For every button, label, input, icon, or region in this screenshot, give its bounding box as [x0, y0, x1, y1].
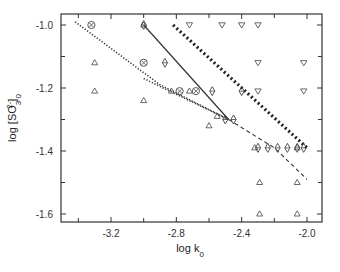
triangle-up-marker: [294, 179, 300, 184]
y-tick-label: -1.4: [36, 146, 54, 157]
triangle-down-marker: [238, 23, 244, 28]
triangle-up-marker: [257, 179, 263, 184]
circled-x-cross: [89, 23, 93, 27]
y-tick-label: -1.2: [36, 83, 54, 94]
triangle-up-marker: [294, 211, 300, 216]
solid-line: [144, 25, 229, 120]
circled-x-cross: [178, 89, 182, 93]
triangle-down-marker: [301, 61, 307, 66]
y-axis-label: log [SO32-]0: [5, 94, 23, 142]
x-tick-label: -2.4: [233, 228, 251, 239]
x-tick-label: -3.2: [102, 228, 120, 239]
x-tick-label: -2.0: [298, 228, 316, 239]
triangle-down-marker: [219, 23, 225, 28]
chart: -3.2-2.8-2.4-2.0-1.0-1.2-1.4-1.6 log k0 …: [0, 0, 340, 272]
data-points: [88, 21, 307, 217]
triangle-down-marker: [186, 23, 192, 28]
triangle-down-marker: [301, 89, 307, 94]
y-tick-label: -1.6: [36, 209, 54, 220]
triangle-up-marker: [257, 211, 263, 216]
triangle-up-marker: [206, 123, 212, 128]
y-label-tail-sub: 0: [14, 94, 23, 99]
triangle-down-marker: [255, 23, 261, 28]
triangle-down-marker: [255, 89, 261, 94]
dotted-upper-left-line: [75, 22, 229, 120]
thick-dotted-line: [173, 25, 307, 148]
x-axis-label-sub: 0: [199, 250, 204, 259]
circled-x-cross: [142, 61, 146, 65]
circled-x-cross: [194, 89, 198, 93]
fit-lines: [75, 22, 307, 180]
triangle-up-marker: [92, 88, 98, 93]
plot-frame: [61, 14, 322, 222]
x-axis-label: log k0: [176, 242, 204, 259]
triangle-up-marker: [186, 88, 192, 93]
triangle-down-marker: [255, 61, 261, 66]
x-tick-label: -2.8: [168, 228, 186, 239]
triangle-up-marker: [141, 97, 147, 102]
axis-ticks: -3.2-2.8-2.4-2.0-1.0-1.2-1.4-1.6: [36, 14, 322, 239]
y-tick-label: -1.0: [36, 20, 54, 31]
triangle-up-marker: [92, 60, 98, 65]
plot-border: [61, 14, 322, 222]
